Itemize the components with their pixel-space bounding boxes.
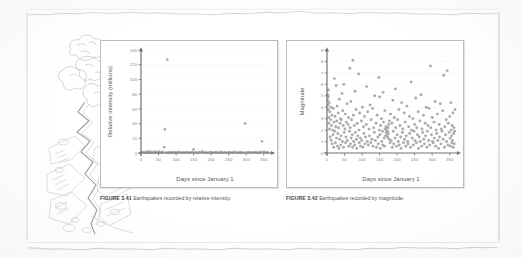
svg-text:Days since January 1: Days since January 1 (362, 176, 420, 182)
figure-3-42-caption: FIGURE 3.42 Earthquakes recorded by magn… (286, 195, 438, 203)
svg-text:5: 5 (321, 93, 324, 98)
svg-text:Magnitude: Magnitude (299, 87, 305, 116)
svg-text:0: 0 (321, 151, 324, 156)
figure-3-41-label: FIGURE 3.41 (100, 195, 132, 201)
scanned-page-sheet: 020406080100120140050100150200250300350D… (28, 10, 498, 242)
chart-frame-magnitude: 0123456789050100150200250300350Days sinc… (286, 40, 464, 188)
svg-text:250: 250 (411, 157, 419, 162)
figure-3-41-caption: FIGURE 3.41 Earthquakes recorded by rela… (100, 195, 252, 203)
svg-text:150: 150 (190, 157, 198, 162)
svg-text:3: 3 (321, 116, 324, 121)
svg-text:60: 60 (132, 107, 137, 112)
svg-text:100: 100 (172, 157, 180, 162)
svg-text:Days since January 1: Days since January 1 (176, 176, 234, 182)
svg-text:1: 1 (321, 139, 324, 144)
svg-text:250: 250 (225, 157, 233, 162)
svg-text:150: 150 (376, 157, 384, 162)
svg-text:350: 350 (260, 157, 268, 162)
svg-text:100: 100 (130, 77, 138, 82)
svg-text:2: 2 (321, 128, 324, 133)
figure-3-42: 0123456789050100150200250300350Days sinc… (286, 40, 466, 203)
figure-3-42-text: Earthquakes recorded by magnitude. (319, 195, 404, 201)
screenshot-root: 020406080100120140050100150200250300350D… (0, 0, 522, 258)
figure-3-41-text: Earthquakes recorded by relative intensi… (133, 195, 231, 201)
svg-text:0: 0 (140, 157, 143, 162)
svg-text:0: 0 (326, 157, 329, 162)
svg-text:0: 0 (135, 151, 138, 156)
svg-text:120: 120 (130, 62, 138, 67)
svg-text:80: 80 (132, 92, 137, 97)
svg-text:8: 8 (321, 59, 324, 64)
svg-text:200: 200 (207, 157, 215, 162)
svg-text:300: 300 (429, 157, 437, 162)
figure-3-42-label: FIGURE 3.42 (286, 195, 318, 201)
svg-text:300: 300 (243, 157, 251, 162)
svg-text:Relative intensity (millions): Relative intensity (millions) (107, 66, 113, 137)
svg-text:350: 350 (446, 157, 454, 162)
svg-text:20: 20 (132, 136, 137, 141)
svg-text:100: 100 (358, 157, 366, 162)
svg-text:50: 50 (156, 157, 161, 162)
svg-text:4: 4 (321, 105, 324, 110)
svg-text:50: 50 (342, 157, 347, 162)
torn-paper-bottom-edge (28, 240, 498, 251)
torn-paper-top-edge (28, 7, 498, 18)
scatter-plot-relative-intensity: 020406080100120140050100150200250300350D… (101, 41, 277, 187)
scatter-plot-magnitude: 0123456789050100150200250300350Days sinc… (287, 41, 463, 187)
svg-text:40: 40 (132, 121, 137, 126)
svg-text:9: 9 (321, 48, 324, 53)
svg-text:200: 200 (393, 157, 401, 162)
svg-text:7: 7 (321, 71, 324, 76)
svg-text:140: 140 (130, 48, 138, 53)
figure-3-41: 020406080100120140050100150200250300350D… (100, 40, 280, 203)
svg-text:6: 6 (321, 82, 324, 87)
chart-frame-relative-intensity: 020406080100120140050100150200250300350D… (100, 40, 278, 188)
